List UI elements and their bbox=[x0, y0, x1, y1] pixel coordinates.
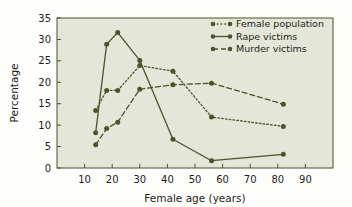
legend-marker-end bbox=[228, 34, 233, 39]
legend-label-1: Female population bbox=[236, 18, 324, 29]
data-point bbox=[93, 130, 98, 135]
data-point bbox=[137, 58, 142, 63]
y-tick-label: 25 bbox=[38, 55, 51, 66]
legend-label-2: Rape victims bbox=[236, 31, 297, 42]
line-chart: 05101520253035 102030405060708090 Percen… bbox=[0, 0, 352, 207]
chart-figure: 05101520253035 102030405060708090 Percen… bbox=[0, 0, 352, 207]
data-point bbox=[209, 115, 214, 120]
data-point bbox=[104, 88, 109, 93]
data-point bbox=[281, 124, 286, 129]
data-point bbox=[281, 102, 286, 107]
data-point bbox=[104, 42, 109, 47]
data-point bbox=[209, 81, 214, 86]
data-point bbox=[281, 152, 286, 157]
data-point bbox=[115, 30, 120, 35]
x-axis-label: Female age (years) bbox=[144, 192, 245, 204]
legend-marker-start bbox=[211, 22, 216, 27]
x-tick-label: 70 bbox=[244, 174, 257, 185]
x-tick-label: 40 bbox=[161, 174, 174, 185]
x-tick-label: 90 bbox=[299, 174, 312, 185]
data-point bbox=[170, 82, 175, 87]
x-tick-label: 80 bbox=[271, 174, 284, 185]
data-point bbox=[93, 142, 98, 147]
data-point bbox=[170, 137, 175, 142]
x-tick-label: 20 bbox=[106, 174, 119, 185]
x-tick-label: 10 bbox=[78, 174, 91, 185]
x-tick-label: 50 bbox=[189, 174, 202, 185]
data-point bbox=[104, 126, 109, 131]
legend-marker-end bbox=[228, 47, 233, 52]
y-tick-label: 35 bbox=[38, 13, 51, 24]
legend-marker-start bbox=[211, 34, 216, 39]
x-tick-label: 30 bbox=[133, 174, 146, 185]
data-point bbox=[170, 69, 175, 74]
y-tick-label: 20 bbox=[38, 77, 51, 88]
legend-marker-start bbox=[211, 47, 216, 52]
data-point bbox=[115, 120, 120, 125]
data-point bbox=[209, 158, 214, 163]
legend-marker-end bbox=[228, 22, 233, 27]
y-tick-label: 15 bbox=[38, 98, 51, 109]
data-point bbox=[93, 108, 98, 113]
y-tick-label: 0 bbox=[45, 163, 51, 174]
y-tick-label: 30 bbox=[38, 34, 51, 45]
y-axis-label: Percentage bbox=[8, 63, 20, 122]
y-tick-label: 5 bbox=[45, 141, 51, 152]
data-point bbox=[115, 88, 120, 93]
legend-label-3: Murder victims bbox=[236, 43, 307, 54]
x-tick-label: 60 bbox=[216, 174, 229, 185]
data-point bbox=[137, 87, 142, 92]
y-tick-label: 10 bbox=[38, 120, 51, 131]
